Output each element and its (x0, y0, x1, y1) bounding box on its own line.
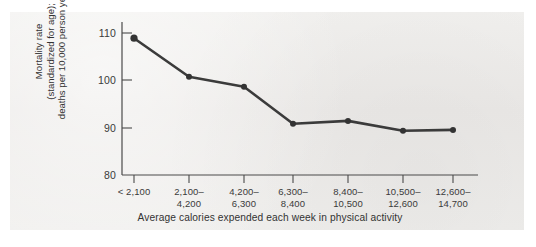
data-point (345, 118, 351, 124)
y-axis-title: Mortality rate (standardized for age); d… (33, 0, 68, 131)
y-tick-label-100: 100 (88, 74, 116, 86)
x-tick-label-6-line-1: 12,600– (435, 186, 470, 197)
x-tick-label-5-line-1: 10,500– (385, 186, 420, 197)
x-tick-marks (134, 175, 453, 183)
data-point (290, 121, 296, 127)
y-tick-label-90: 90 (88, 122, 116, 134)
line-chart: 110 100 90 80 Mortality rate (standardiz… (0, 0, 536, 247)
data-point (241, 84, 247, 90)
x-tick-label-5-line-2: 12,600 (388, 198, 418, 209)
mortality-series-line (134, 38, 453, 131)
x-tick-label-6: 12,600– 14,700 (418, 186, 488, 209)
mortality-series-markers (130, 35, 456, 134)
plot-canvas (0, 0, 536, 247)
x-tick-label-4-line-1: 8,400– (333, 186, 363, 197)
x-tick-label-2-line-1: 4,200– (229, 186, 259, 197)
x-tick-label-1-line-1: 2,100– (174, 186, 204, 197)
data-point (130, 35, 137, 42)
x-tick-label-3-line-2: 8,400 (281, 198, 305, 209)
x-tick-label-6-line-2: 14,700 (438, 198, 468, 209)
data-point (186, 74, 192, 80)
data-point (450, 127, 456, 133)
data-point (400, 128, 406, 134)
x-tick-label-3-line-1: 6,300– (278, 186, 308, 197)
y-tick-marks (122, 33, 132, 128)
y-tick-label-80: 80 (88, 169, 116, 181)
x-axis-title: Average calories expended each week in p… (120, 212, 420, 223)
chart-screenshot: 110 100 90 80 Mortality rate (standardiz… (0, 0, 536, 247)
y-axis-title-line-1: Mortality rate (33, 0, 45, 131)
y-axis-title-line-3: deaths per 10,000 person years (56, 0, 68, 131)
x-tick-label-4-line-2: 10,500 (333, 198, 363, 209)
y-axis-title-line-2: (standardized for age); (44, 0, 56, 131)
x-tick-label-0-line-1: < 2,100 (118, 186, 151, 197)
x-tick-label-2-line-2: 6,300 (232, 198, 256, 209)
y-tick-label-110: 110 (88, 27, 116, 39)
x-tick-label-1-line-2: 4,200 (177, 198, 201, 209)
